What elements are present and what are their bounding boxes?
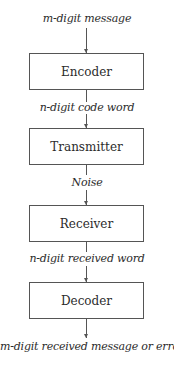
arrow-to-receiver xyxy=(86,190,87,205)
receiver-label: Receiver xyxy=(60,217,113,231)
decoder-box: Decoder xyxy=(29,282,144,319)
encoder-box: Encoder xyxy=(29,53,144,90)
arrow-input-to-encoder xyxy=(86,28,87,53)
arrow-to-decoder xyxy=(86,266,87,282)
connector-transmitter-out xyxy=(86,165,87,175)
noise-label: Noise xyxy=(0,176,174,189)
code-word-label: n-digit code word xyxy=(0,101,174,114)
decoder-label: Decoder xyxy=(61,294,112,308)
encoder-label: Encoder xyxy=(61,65,112,79)
arrow-to-transmitter xyxy=(86,114,87,128)
transmitter-box: Transmitter xyxy=(29,128,144,165)
input-label: m-digit message xyxy=(0,12,174,25)
connector-receiver-out xyxy=(86,242,87,252)
received-word-label: n-digit received word xyxy=(0,252,174,265)
receiver-box: Receiver xyxy=(29,205,144,242)
arrow-decoder-to-output xyxy=(86,319,87,338)
transmitter-label: Transmitter xyxy=(50,140,122,154)
output-label: m-digit received message or error xyxy=(0,340,174,353)
